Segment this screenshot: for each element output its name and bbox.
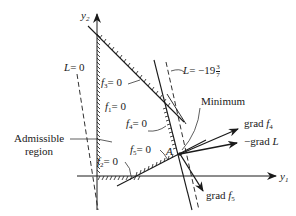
L0-label: L= 0 [64,62,85,73]
leader-f4 [148,126,166,131]
f4-hatching [163,108,176,149]
point-A [178,152,182,156]
point-A-label: A [166,146,173,157]
y2-axis-label: y2 [81,10,89,23]
leader-f2 [125,162,131,176]
minimum-label: Minimum [201,96,245,107]
leader-minimum [182,108,200,150]
Lmin-label: L= −1937 [183,64,220,79]
y1-axis-label: y1 [280,171,288,184]
f1-label: f1= 0 [105,101,126,114]
f2-label: f2= 0 [97,156,118,169]
fraction: 37 [216,64,220,79]
grad-f5-arrow [180,154,203,191]
aux-line [167,94,186,124]
f2-hatching [98,176,140,180]
neg-grad-L-label: −grad L [244,136,279,147]
f3-label: f3= 0 [101,77,122,90]
f5-label: f5= 0 [130,144,151,157]
grad-f4-label: grad f4 [244,118,273,131]
leader-f3 [128,80,140,84]
admissible-region-label: Admissibleregion [14,133,64,157]
f4-label: f4= 0 [126,118,147,131]
f4-line [154,60,192,210]
diagram-canvas [0,0,296,216]
Lmin-dashed-line [166,62,199,210]
leader-admissible [70,139,112,142]
grad-f5-label: grad f5 [206,190,235,203]
f3-hatching [100,35,170,106]
L0-dashed-line [77,74,98,210]
lp-diagram: y2 y1 L= 0 L= −1937 f3= 0 f1= 0 f4= 0 Mi… [0,0,296,216]
